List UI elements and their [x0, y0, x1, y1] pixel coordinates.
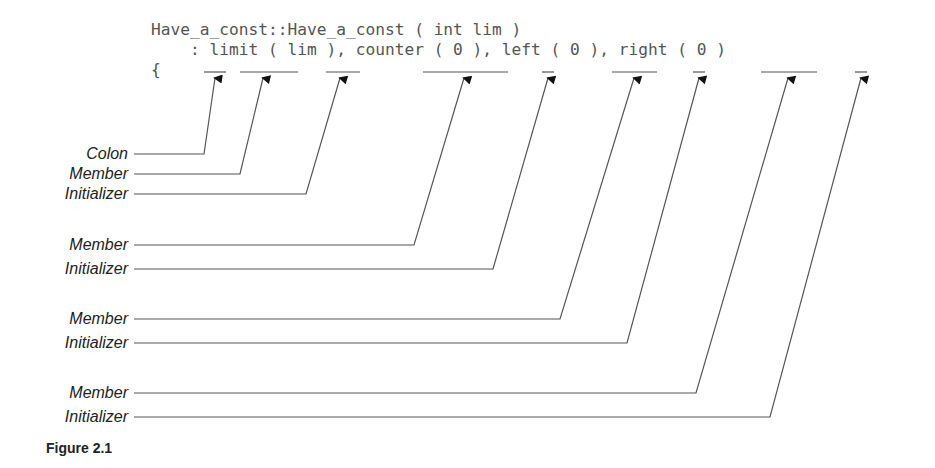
label-initializer-1: Initializer [2, 184, 128, 204]
label-member-4: Member [2, 383, 128, 403]
label-member-2: Member [2, 235, 128, 255]
label-member-3: Member [2, 309, 128, 329]
leader-limit [134, 78, 263, 174]
leader-left [134, 78, 634, 319]
label-initializer-4: Initializer [2, 407, 128, 427]
label-initializer-3: Initializer [2, 333, 128, 353]
figure-caption: Figure 2.1 [46, 440, 112, 456]
leader-counter [134, 78, 464, 245]
leader-right [134, 78, 788, 393]
leader-left-value [134, 78, 699, 343]
leader-right-value [134, 78, 861, 417]
callout-lines [0, 0, 935, 468]
leader-colon [134, 78, 215, 154]
label-member-1: Member [2, 164, 128, 184]
label-colon: Colon [2, 144, 128, 164]
leader-lim [134, 78, 340, 194]
label-initializer-2: Initializer [2, 259, 128, 279]
